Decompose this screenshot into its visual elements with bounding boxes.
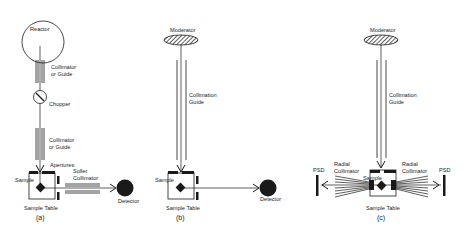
moderator-label: Moderator: [370, 27, 396, 33]
sample-icon: [36, 183, 46, 193]
radial-right-label-1: Radial: [402, 161, 418, 167]
collimator-2-label-2: or Guide: [49, 144, 70, 150]
panel-c: Moderator Collimation Guide Sample: [313, 27, 451, 222]
caption-c: (c): [377, 214, 385, 222]
psd-left-label: PSD: [313, 167, 325, 173]
aperture-left: [29, 171, 38, 174]
collimation-guide-icon: [177, 60, 186, 160]
sample-icon: [377, 181, 387, 191]
chopper-label: Chopper: [49, 101, 71, 107]
caption-a: (a): [36, 214, 45, 222]
sample-table-label: Sample Table: [366, 205, 400, 211]
moderator-icon: [164, 35, 198, 45]
psd-right-icon: [443, 175, 446, 196]
collimator-1-label-2: or Guide: [51, 71, 72, 77]
guide-label-2: Guide: [389, 99, 404, 105]
radial-left-label-1: Radial: [334, 161, 350, 167]
collimator-2-label-1: Collimator: [49, 137, 74, 143]
sample-table-label: Sample Table: [24, 205, 58, 211]
caption-b: (b): [176, 214, 185, 222]
chopper-icon: [34, 91, 47, 104]
radial-right-label-2: Collimator: [402, 168, 427, 174]
psd-right-label: PSD: [439, 167, 451, 173]
sample-table-label: Sample Table: [166, 205, 200, 211]
radial-left-label-2: Collimator: [334, 168, 359, 174]
neutron-instrument-diagram: Reactor Collimator or Guide Chopper Coll…: [0, 0, 464, 232]
guide-label-2: Guide: [189, 99, 204, 105]
collimator-1-label-1: Collimator: [51, 64, 76, 70]
guide-label-1: Collimation: [189, 92, 217, 98]
moderator-label: Moderator: [170, 27, 196, 33]
psd-left-icon: [316, 175, 319, 196]
aperture-right: [42, 171, 55, 174]
detector-icon: [260, 180, 277, 197]
detector-label: Detector: [260, 196, 281, 202]
radial-collimator-right-icon: [396, 176, 428, 197]
panel-b: Moderator Collimation Guide Sample Detec…: [155, 27, 281, 222]
soller-label-1: Soller: [73, 168, 87, 174]
reactor-label: Reactor: [30, 26, 50, 32]
sample-label: Sample: [155, 177, 174, 183]
collimation-guide-icon: [377, 60, 386, 158]
guide-label-1: Collimation: [389, 92, 417, 98]
soller-label-2: Collimator: [73, 175, 98, 181]
detector-icon: [117, 180, 134, 197]
panel-a: Reactor Collimator or Guide Chopper Coll…: [15, 21, 139, 222]
detector-label: Detector: [118, 198, 139, 204]
sample-label: Sample: [15, 177, 34, 183]
moderator-icon: [364, 35, 398, 45]
soller-collimator-icon: [65, 184, 100, 193]
sample-icon: [176, 183, 186, 193]
apertures-label: Apertures: [50, 162, 74, 168]
